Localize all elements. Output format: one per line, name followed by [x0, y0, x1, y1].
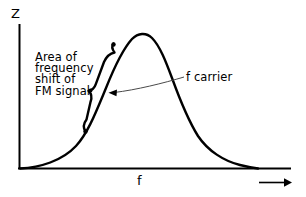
carrier-label: f carrier — [186, 70, 232, 84]
figure-canvas — [0, 0, 306, 197]
brace-bottom-tip — [83, 129, 87, 133]
brace-top-tip — [111, 42, 115, 46]
x-axis-label: f — [137, 174, 142, 187]
area-annotation-line-4: FM signal — [35, 86, 94, 97]
area-annotation: Area of frequency shift of FM signal — [35, 52, 94, 97]
x-direction-arrow-head — [284, 178, 292, 187]
carrier-arrowhead — [109, 90, 118, 97]
y-axis-label: Z — [11, 7, 20, 20]
carrier-leader — [109, 77, 185, 96]
x-direction-arrow-icon — [259, 178, 292, 187]
fm-spectrum-figure: Z f Area of frequency shift of FM signal… — [0, 0, 306, 197]
